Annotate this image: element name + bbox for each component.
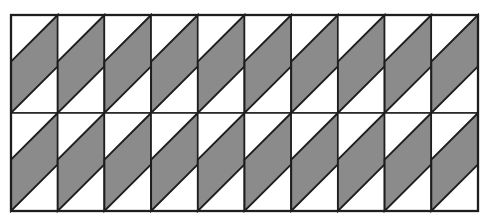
parallelogram-pattern-figure (0, 0, 490, 218)
figure-canvas (0, 0, 490, 218)
